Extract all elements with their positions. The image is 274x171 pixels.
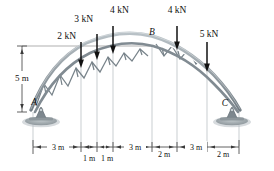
base-plate-c (220, 118, 244, 121)
support-c (213, 107, 251, 127)
diagram-canvas: 2 kN 3 kN 4 kN 4 kN 5 kN A B C 5 m (0, 0, 274, 171)
arch-truss (31, 32, 240, 112)
node-label-a: A (30, 97, 37, 107)
pin-hinge-a (39, 108, 43, 112)
span-dimension-label-6: 2 m (158, 150, 171, 159)
span-dimension-label-7: 2 m (217, 150, 230, 159)
node-label-b: B (149, 27, 155, 37)
load-label-2: 3 kN (74, 14, 93, 24)
span-dimension-label-5: 1 m (101, 154, 114, 163)
span-dimension-label-1: 3 m (52, 143, 65, 152)
load-label-5: 5 kN (200, 29, 219, 39)
span-dimension-label-2: 3 m (129, 143, 142, 152)
height-dimension-label: 5 m (15, 73, 29, 83)
load-label-3: 4 kN (110, 5, 129, 15)
support-a (22, 107, 60, 127)
load-label-4: 4 kN (168, 5, 187, 15)
load-arrow-3 (110, 26, 116, 54)
base-plate-a (29, 118, 53, 121)
pin-hinge-c (230, 108, 234, 112)
load-label-1: 2 kN (57, 31, 76, 41)
span-dimension-label-4: 1 m (83, 154, 96, 163)
span-dimension-label-3: 3 m (190, 143, 203, 152)
node-label-c: C (222, 98, 229, 108)
